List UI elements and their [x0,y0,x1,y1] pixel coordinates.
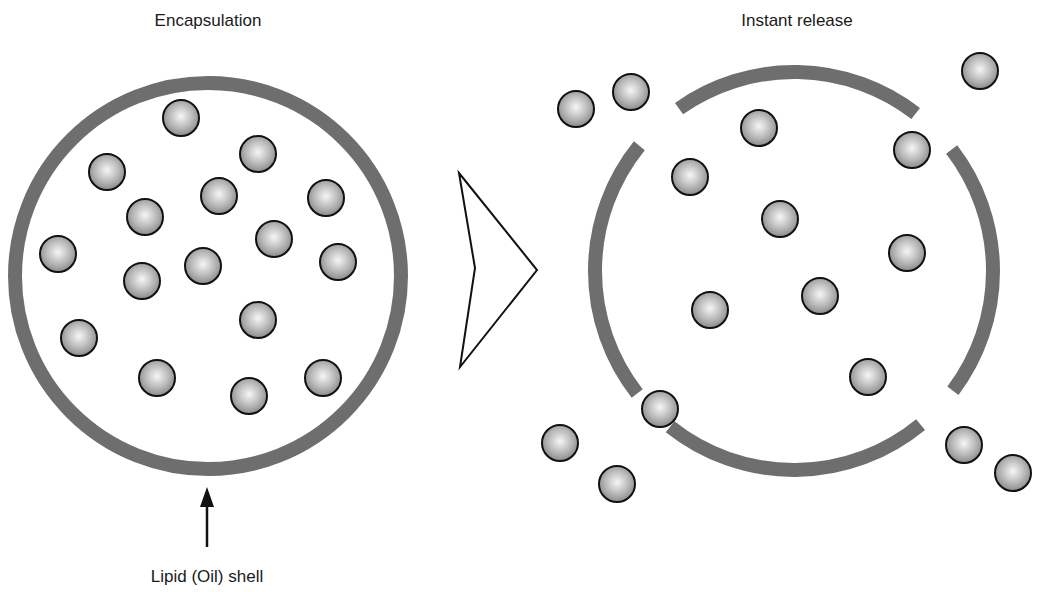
particle [962,53,998,89]
particle [89,154,125,190]
diagram-canvas: Encapsulation Instant release Lipid (Oil… [0,0,1039,592]
particle [124,263,160,299]
particle [672,159,708,195]
instant-release-title: Instant release [741,11,853,31]
particle [127,199,163,235]
particle [894,132,930,168]
particle [692,292,728,328]
particle [889,235,925,271]
particle [762,201,798,237]
particle [305,360,341,396]
released-particles [542,53,1031,502]
particle [642,391,678,427]
particle [613,74,649,110]
particle [139,360,175,396]
particle [995,455,1031,491]
particle [320,244,356,280]
particle [802,278,838,314]
particle [61,320,97,356]
particle [599,466,635,502]
lipid-shell-label: Lipid (Oil) shell [151,567,263,587]
particle [558,91,594,127]
particle [542,425,578,461]
diagram-svg [0,0,1039,592]
particle [256,221,292,257]
particle [231,378,267,414]
particle [185,248,221,284]
shell-fragment [679,72,916,114]
particle [201,178,237,214]
particle [163,100,199,136]
instant-release-panel [542,53,1031,502]
particle [850,359,886,395]
particle [240,136,276,172]
particle [741,110,777,146]
encapsulation-panel [15,83,401,547]
particle [240,302,276,338]
particle [308,180,344,216]
particle [946,427,982,463]
shell-fragment [952,150,993,391]
shell-pointer-arrow [200,487,214,547]
encapsulation-title: Encapsulation [155,11,262,31]
particle [40,236,76,272]
transition-arrow-icon [459,173,537,367]
encapsulated-particles [40,100,356,414]
shell-fragment [670,425,920,470]
shell-fragment [595,146,639,394]
